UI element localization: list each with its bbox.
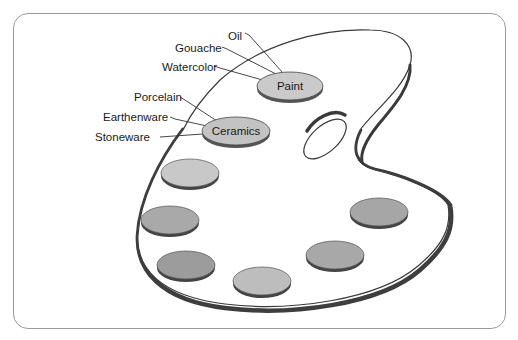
oil-label: Oil (228, 30, 242, 42)
paint-well (306, 241, 364, 272)
stoneware-label: Stoneware (95, 131, 150, 143)
palette-diagram: Paint Ceramics Oil Gouache Watercolor Po… (0, 0, 518, 340)
paint-well (161, 159, 219, 190)
earthenware-label: Earthenware (103, 111, 168, 123)
ceramics-node: Ceramics (202, 117, 270, 148)
porcelain-label: Porcelain (134, 91, 182, 103)
paint-node: Paint (257, 72, 323, 103)
paint-well (233, 267, 291, 298)
paint-label: Paint (277, 80, 304, 92)
paint-well (350, 198, 408, 229)
gouache-label: Gouache (175, 42, 222, 54)
paint-well (141, 206, 199, 237)
paint-well (157, 251, 215, 282)
ceramics-label: Ceramics (212, 125, 261, 137)
watercolor-label: Watercolor (162, 61, 217, 73)
